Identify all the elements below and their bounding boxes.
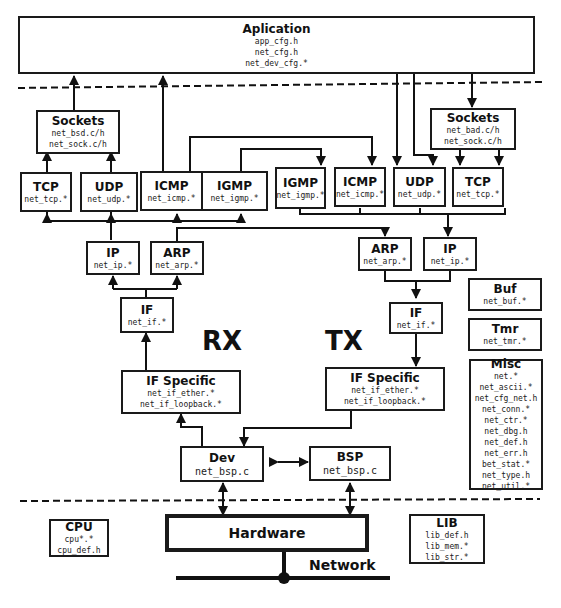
application-title: Aplication bbox=[243, 22, 311, 36]
file-label: net_bsp.c bbox=[195, 465, 249, 478]
file-label: net_bsd.c/h bbox=[52, 128, 105, 139]
file-label: net_if.* bbox=[128, 317, 167, 328]
application-box: Aplication app_cfg.h net_cfg.h net_dev_c… bbox=[18, 16, 535, 74]
box-title: IP bbox=[106, 246, 119, 260]
file-label: net_buf.* bbox=[483, 296, 526, 307]
rx-label: RX bbox=[202, 326, 242, 356]
box-title: IF bbox=[410, 306, 423, 320]
file-label: net_udp.* bbox=[87, 194, 130, 205]
rx-if-specific-box: IF Specific net_if_ether.* net_if_loopba… bbox=[121, 370, 241, 414]
file-label: net_ip.* bbox=[94, 260, 133, 271]
tx-icmp-box: ICMP net_icmp.* bbox=[334, 167, 386, 207]
tmr-box: Tmr net_tmr.* bbox=[468, 318, 542, 351]
file-label: net_tmr.* bbox=[483, 336, 526, 347]
box-title: TCP bbox=[33, 180, 59, 194]
rx-tcp-box: TCP net_tcp.* bbox=[20, 172, 72, 212]
rx-ip-box: IP net_ip.* bbox=[86, 241, 140, 275]
box-title: IF bbox=[141, 303, 154, 317]
file-label: net_err.h bbox=[484, 448, 527, 459]
file-label: net_dev_cfg.* bbox=[245, 58, 308, 69]
box-title: ICMP bbox=[154, 179, 188, 193]
file-label: net_if_loopback.* bbox=[140, 399, 222, 410]
rx-sockets-box: Sockets net_bsd.c/h net_sock.c/h bbox=[36, 110, 120, 154]
file-label: net_icmp.* bbox=[336, 189, 384, 200]
box-title: ARP bbox=[163, 246, 190, 260]
network-stack-diagram: Aplication app_cfg.h net_cfg.h net_dev_c… bbox=[0, 0, 561, 608]
tx-sockets-box: Sockets net_bad.c/h net_sock.c/h bbox=[430, 108, 516, 150]
file-label: net_type.h bbox=[482, 470, 530, 481]
file-label: bet_stat.* bbox=[482, 459, 530, 470]
box-title: LIB bbox=[436, 516, 457, 530]
file-label: net_util.* bbox=[482, 481, 530, 492]
file-label: net_igmp.* bbox=[276, 190, 324, 201]
tx-arp-box: ARP net_arp.* bbox=[358, 237, 412, 271]
file-label: cpu_def.h bbox=[57, 545, 100, 556]
file-label: net_if_ether.* bbox=[147, 388, 214, 399]
dev-box: Dev net_bsp.c bbox=[180, 446, 264, 482]
file-label: net_ctr.* bbox=[484, 415, 527, 426]
hardware-box: Hardware bbox=[165, 514, 369, 552]
box-title: Hardware bbox=[229, 526, 306, 540]
box-title: Buf bbox=[494, 282, 517, 296]
box-title: Misc bbox=[491, 357, 521, 371]
file-label: net_ascii.* bbox=[480, 382, 533, 393]
buf-box: Buf net_buf.* bbox=[468, 278, 542, 311]
rx-arp-box: ARP net_arp.* bbox=[150, 241, 204, 275]
file-label: net_cfg_net.h bbox=[475, 393, 538, 404]
file-label: net_ip.* bbox=[431, 256, 470, 267]
file-label: net_igmp.* bbox=[210, 193, 258, 204]
rx-if-box: IF net_if.* bbox=[120, 297, 174, 333]
network-label: Network bbox=[309, 557, 376, 573]
box-title: IP bbox=[443, 242, 456, 256]
file-label: net_conn.* bbox=[482, 404, 530, 415]
box-title: IGMP bbox=[217, 179, 252, 193]
tx-igmp-box: IGMP net_igmp.* bbox=[275, 167, 326, 209]
bsp-box: BSP net_bsp.c bbox=[309, 446, 391, 481]
rx-icmp-box: ICMP net_icmp.* bbox=[140, 171, 203, 211]
box-title: Sockets bbox=[52, 114, 105, 128]
box-title: ICMP bbox=[343, 175, 377, 189]
file-label: lib_def.h bbox=[425, 530, 468, 541]
file-label: net_tcp.* bbox=[456, 189, 499, 200]
file-label: net_cfg.h bbox=[255, 47, 298, 58]
tx-tcp-box: TCP net_tcp.* bbox=[452, 167, 504, 207]
file-label: net_sock.c/h bbox=[49, 139, 107, 150]
file-label: cpu*.* bbox=[65, 534, 94, 545]
box-title: UDP bbox=[95, 180, 124, 194]
file-label: net_def.h bbox=[484, 437, 527, 448]
tx-if-specific-box: IF Specific net_if_ether.* net_if_loopba… bbox=[325, 367, 445, 411]
file-label: net_bsp.c bbox=[323, 464, 377, 477]
file-label: lib_mem.* bbox=[425, 541, 468, 552]
file-label: lib_str.* bbox=[425, 552, 468, 563]
box-title: TCP bbox=[465, 175, 491, 189]
box-title: Sockets bbox=[447, 111, 500, 125]
box-title: UDP bbox=[405, 175, 434, 189]
tx-label: TX bbox=[325, 326, 363, 356]
file-label: net.* bbox=[494, 371, 518, 382]
file-label: app_cfg.h bbox=[255, 36, 298, 47]
file-label: net_if_loopback.* bbox=[344, 396, 426, 407]
box-title: ARP bbox=[371, 242, 398, 256]
lib-box: LIB lib_def.h lib_mem.* lib_str.* bbox=[409, 514, 485, 564]
tx-udp-box: UDP net_udp.* bbox=[393, 167, 446, 207]
file-label: net_icmp.* bbox=[147, 193, 195, 204]
file-label: net_if_ether.* bbox=[351, 385, 418, 396]
file-label: net_dbg.h bbox=[484, 426, 527, 437]
file-label: net_arp.* bbox=[363, 256, 406, 267]
rx-udp-box: UDP net_udp.* bbox=[80, 172, 138, 212]
file-label: net_tcp.* bbox=[24, 194, 67, 205]
box-title: Tmr bbox=[492, 322, 519, 336]
file-label: net_udp.* bbox=[398, 189, 441, 200]
file-label: net_if.* bbox=[397, 320, 436, 331]
misc-box: Misc net.* net_ascii.* net_cfg_net.h net… bbox=[469, 359, 543, 490]
box-title: IF Specific bbox=[146, 374, 215, 388]
file-label: net_bad.c/h bbox=[447, 125, 500, 136]
rx-igmp-box: IGMP net_igmp.* bbox=[201, 171, 268, 211]
file-label: net_sock.c/h bbox=[444, 136, 502, 147]
cpu-box: CPU cpu*.* cpu_def.h bbox=[49, 519, 109, 557]
box-title: CPU bbox=[65, 520, 92, 534]
box-title: IGMP bbox=[283, 176, 318, 190]
tx-if-box: IF net_if.* bbox=[389, 302, 443, 334]
box-title: BSP bbox=[337, 450, 364, 464]
box-title: IF Specific bbox=[350, 371, 419, 385]
